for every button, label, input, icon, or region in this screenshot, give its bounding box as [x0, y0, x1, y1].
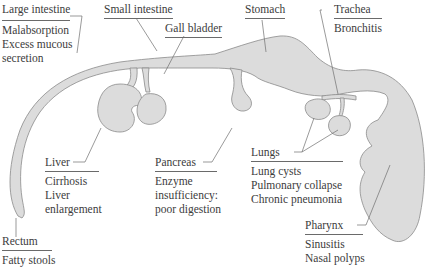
- lungs-effect: Chronic pneumonia: [251, 192, 343, 206]
- pharynx-effect: Sinusitis: [305, 237, 365, 251]
- pancreas-effect: poor digestion: [155, 202, 221, 216]
- label-pancreas: Pancreas Enzyme insufficiency: poor dige…: [155, 155, 221, 216]
- large-intestine-effect: secretion: [2, 51, 73, 65]
- rectum-effect: Fatty stools: [2, 253, 55, 267]
- pancreas-shape: [230, 68, 251, 111]
- large-intestine-effect: Malabsorption: [2, 20, 70, 37]
- leader-small-intestine: [136, 18, 157, 51]
- stomach-title: Stomach: [245, 2, 285, 19]
- small-intestine-title: Small intestine: [104, 2, 173, 19]
- rectum-title: Rectum: [2, 234, 52, 251]
- label-small-intestine: Small intestine: [104, 2, 173, 21]
- large-intestine-title: Large intestine: [2, 2, 70, 18]
- gall-bladder-shape: [137, 94, 166, 125]
- lung-left-shape: [305, 99, 330, 120]
- label-liver: Liver Cirrhosis Liver enlargement: [45, 155, 102, 216]
- lung-right-shape: [329, 116, 351, 136]
- gall-bladder-title: Gall bladder: [165, 21, 222, 38]
- pancreas-effect: Enzyme: [155, 174, 221, 188]
- label-gall-bladder: Gall bladder: [165, 21, 222, 40]
- liver-effect: enlargement: [45, 202, 102, 216]
- trachea-effect: Bronchitis: [334, 21, 382, 35]
- liver-effect: Liver: [45, 188, 102, 202]
- lungs-title: Lungs: [251, 145, 343, 162]
- label-pharynx: Pharynx Sinusitis Nasal polyps: [305, 218, 365, 265]
- pharynx-effect: Nasal polyps: [305, 251, 365, 265]
- pancreas-title: Pancreas: [155, 155, 217, 172]
- label-trachea: Trachea Bronchitis: [334, 2, 382, 35]
- pancreas-effect: insufficiency:: [155, 188, 221, 202]
- label-large-intestine: Large intestine Malabsorption Excess muc…: [2, 2, 73, 65]
- pharynx-title: Pharynx: [305, 218, 363, 235]
- liver-shape: [98, 84, 142, 132]
- liver-title: Liver: [45, 155, 99, 172]
- lungs-effect: Lung cysts: [251, 164, 343, 178]
- trachea-title: Trachea: [334, 2, 382, 19]
- lungs-effect: Pulmonary collapse: [251, 178, 343, 192]
- label-stomach: Stomach: [245, 2, 285, 21]
- liver-effect: Cirrhosis: [45, 174, 102, 188]
- large-intestine-effect: Excess mucous: [2, 37, 73, 51]
- label-rectum: Rectum Fatty stools: [2, 234, 55, 267]
- label-lungs: Lungs Lung cysts Pulmonary collapse Chro…: [251, 145, 343, 206]
